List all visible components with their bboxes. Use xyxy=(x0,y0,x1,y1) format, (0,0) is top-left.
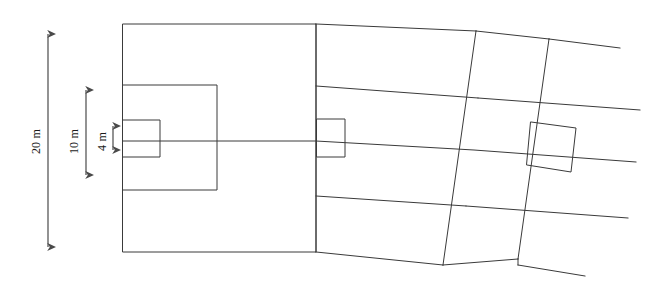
dimension-label-20m: 20 m xyxy=(29,118,44,166)
panel-right-inner-small-rect xyxy=(527,122,576,172)
panel-middle-inner-small-rect xyxy=(317,119,345,157)
diagram-canvas: 20 m 10 m 4 m xyxy=(0,0,647,290)
dimension-label-4m: 4 m xyxy=(95,120,110,164)
panel-left-inner-medium-rect xyxy=(123,85,217,190)
panel-left-inner-small-rect xyxy=(123,120,160,157)
panel-right-outline xyxy=(443,31,549,265)
horizontal-centerline xyxy=(123,141,636,162)
panel-middle-outline xyxy=(316,24,476,265)
panel-right-band-lines xyxy=(466,98,640,218)
right-top-tail-line xyxy=(549,39,620,48)
panel-left-outline xyxy=(123,24,316,252)
right-bottom-tail-line xyxy=(518,265,585,276)
dimension-label-10m: 10 m xyxy=(67,118,82,166)
